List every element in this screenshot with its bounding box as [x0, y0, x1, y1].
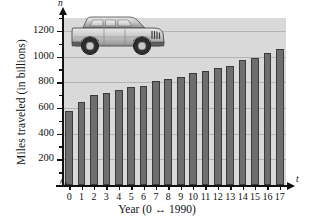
y-tick-minor — [59, 18, 63, 19]
y-tick-minor — [59, 172, 63, 173]
bar — [264, 53, 272, 185]
bar — [202, 71, 210, 185]
y-tick-minor — [59, 44, 63, 45]
x-axis-arrow-icon — [287, 182, 295, 190]
bar — [90, 95, 98, 185]
bar — [239, 60, 247, 185]
x-tick — [255, 185, 256, 190]
y-tick-label: 1200 — [14, 24, 54, 35]
y-tick-label: 200 — [14, 152, 54, 163]
y-tick — [57, 108, 63, 109]
x-tick — [267, 185, 268, 190]
x-tick — [131, 185, 132, 190]
x-tick — [119, 185, 120, 190]
x-tick — [69, 185, 70, 190]
y-tick — [57, 82, 63, 83]
x-tick — [144, 185, 145, 190]
axis-break-icon: ∿ — [59, 176, 68, 189]
x-tick — [230, 185, 231, 190]
y-tick-minor — [59, 69, 63, 70]
x-tick — [94, 185, 95, 190]
y-tick-minor — [59, 121, 63, 122]
y-tick-label: 600 — [14, 101, 54, 112]
bar — [177, 77, 185, 185]
bar — [140, 86, 148, 185]
x-axis-title: Year (0 ↔ 1990) — [0, 203, 314, 215]
bar — [103, 93, 111, 185]
bar — [152, 81, 160, 185]
y-tick — [57, 57, 63, 58]
bar — [164, 79, 172, 185]
y-tick-minor — [59, 95, 63, 96]
bar — [65, 111, 73, 185]
x-axis-variable-label: t — [296, 174, 299, 184]
y-tick-label: 1000 — [14, 50, 54, 61]
y-tick — [57, 134, 63, 135]
bar — [115, 90, 123, 185]
x-tick — [218, 185, 219, 190]
y-tick — [57, 31, 63, 32]
bar — [78, 102, 86, 186]
y-axis-variable-label: n — [58, 0, 63, 8]
bar — [276, 49, 284, 185]
x-tick-label: 17 — [269, 191, 291, 202]
x-tick — [82, 185, 83, 190]
bar — [251, 58, 259, 185]
chart-figure: Miles traveled (in billions) n t ∿ 20040… — [0, 0, 314, 224]
x-tick — [106, 185, 107, 190]
x-tick — [168, 185, 169, 190]
x-tick — [280, 185, 281, 190]
y-tick-label: 400 — [14, 127, 54, 138]
x-tick — [205, 185, 206, 190]
suv-illustration-icon — [66, 11, 170, 63]
bar — [127, 87, 135, 185]
x-tick — [156, 185, 157, 190]
bar — [214, 68, 222, 185]
y-tick — [57, 159, 63, 160]
x-tick — [193, 185, 194, 190]
bar — [189, 73, 197, 185]
x-tick — [181, 185, 182, 190]
y-tick-minor — [59, 146, 63, 147]
x-tick — [243, 185, 244, 190]
y-tick-label: 800 — [14, 75, 54, 86]
bar — [226, 66, 234, 185]
